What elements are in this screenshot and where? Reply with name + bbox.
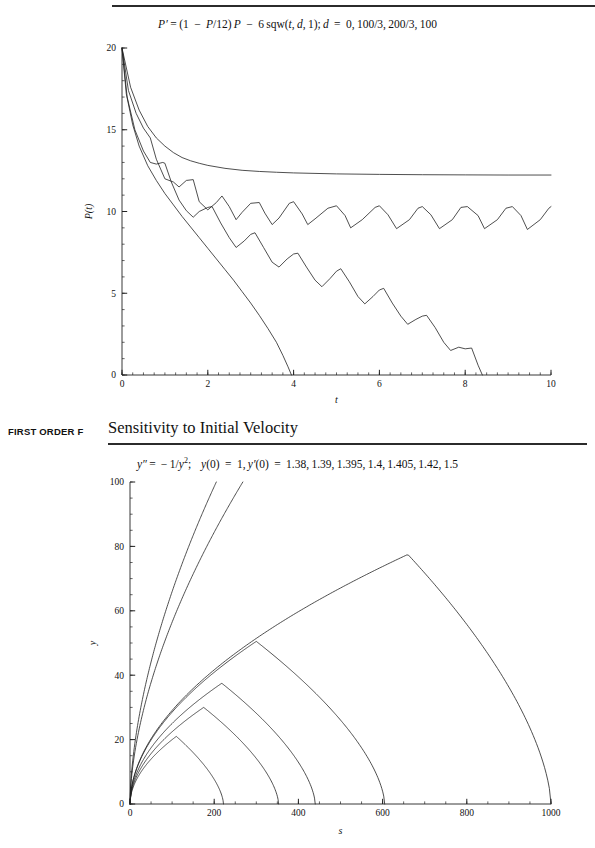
x-tick-label: 1000 [542,808,561,818]
top-page-rule [112,5,595,7]
plot-canvas-sensitivity: 02004006008001000020406080100sy [0,452,595,848]
x-tick-label: 10 [546,379,556,389]
series-curve-5 [130,482,243,804]
y-tick-label: 15 [107,125,117,135]
y-tick-label: 10 [107,207,117,217]
y-tick-label: 20 [107,43,117,53]
y-axis-label: y [87,640,98,646]
y-tick-label: 80 [115,542,125,552]
y-tick-label: 0 [119,799,124,809]
plot-canvas-logistic: 024681005101520tP(t) [0,14,595,404]
series-curve-0 [130,736,223,804]
y-tick-label: 5 [111,289,116,299]
series-curve-4 [130,555,551,804]
series-curve-3 [130,641,385,804]
x-axis-label: t [335,394,338,404]
figure-1-equation: P′=(1 − P/12) P − 6 sqw(t, d, 1); d = 0,… [0,18,595,30]
y-tick-label: 60 [115,606,125,616]
section-rule [108,443,587,445]
series-curve-1 [122,48,551,229]
x-tick-label: 0 [120,379,125,389]
figure-sensitivity-initial-velocity: y″=−1/y2;y(0) = 1, y′(0) = 1.38, 1.39, 1… [0,452,595,848]
x-axis-label: s [339,825,343,836]
x-tick-label: 0 [128,808,133,818]
y-tick-label: 0 [111,370,116,380]
y-axis-label: P(t) [83,203,95,220]
x-tick-label: 200 [207,808,222,818]
series-curve-3 [122,48,291,375]
x-tick-label: 800 [460,808,475,818]
x-tick-label: 2 [205,379,210,389]
y-tick-label: 20 [115,735,125,745]
series-curve-0 [122,48,551,175]
x-tick-label: 6 [377,379,382,389]
top-rule-ghost-text [118,0,418,4]
series-curve-1 [130,707,279,804]
y-tick-label: 40 [115,671,125,681]
figure-logistic-harvest: P′=(1 − P/12) P − 6 sqw(t, d, 1); d = 0,… [0,14,595,404]
section-title: Sensitivity to Initial Velocity [108,418,298,438]
x-tick-label: 400 [291,808,306,818]
y-tick-label: 100 [110,477,125,487]
chart-logistic-group: 024681005101520tP(t) [83,43,556,404]
section-header: FIRST ORDER F Sensitivity to Initial Vel… [0,418,595,448]
series-curve-6 [130,482,216,804]
series-curve-2 [130,683,315,804]
chart-sensitivity-group: 02004006008001000020406080100sy [87,477,561,836]
x-tick-label: 8 [463,379,468,389]
figure-2-equation: y″=−1/y2;y(0) = 1, y′(0) = 1.38, 1.39, 1… [0,456,595,470]
x-tick-label: 4 [291,379,296,389]
textbook-page: P′=(1 − P/12) P − 6 sqw(t, d, 1); d = 0,… [0,0,595,848]
series-curve-2 [122,48,482,375]
x-tick-label: 600 [375,808,390,818]
running-head: FIRST ORDER F [8,426,83,437]
